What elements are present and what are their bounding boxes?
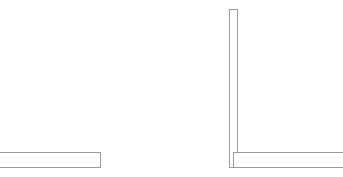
drawing-canvas xyxy=(0,0,343,177)
canvas-background xyxy=(0,0,343,177)
line-drawing xyxy=(0,0,343,177)
